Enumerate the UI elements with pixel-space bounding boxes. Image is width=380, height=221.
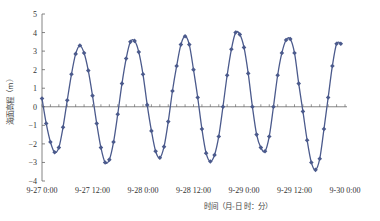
data-point-diamond (200, 127, 205, 132)
data-point-diamond (162, 144, 167, 149)
y-tick-label: 1 (33, 84, 37, 93)
data-point-diamond (141, 72, 146, 77)
x-axis-title: 时间（月-日 时：分） (204, 201, 272, 211)
data-point-diamond (301, 109, 306, 114)
data-point-diamond (94, 121, 99, 126)
x-tick-label: 9-27 12:00 (75, 186, 110, 195)
sea-level-chart: 543210−1−2−3−4 9-27 0:009-27 12:009-28 0… (0, 0, 380, 221)
data-point-diamond (216, 134, 221, 139)
data-point-diamond (115, 112, 120, 117)
x-tick-label: 9-27 0:00 (27, 186, 58, 195)
x-axis: 9-27 0:009-27 12:009-28 0:009-28 12:009-… (27, 104, 361, 195)
y-tick-label: −2 (28, 140, 37, 149)
data-point-diamond (267, 134, 272, 139)
y-tick-label: 2 (33, 66, 37, 75)
y-tick-label: 0 (33, 103, 37, 112)
y-tick-label: 5 (33, 10, 37, 19)
x-tick-label: 9-28 12:00 (176, 186, 211, 195)
y-tick-label: −4 (28, 177, 37, 186)
data-point-diamond (65, 98, 70, 103)
data-point-diamond (107, 157, 112, 162)
data-point-diamond (309, 160, 314, 165)
data-point-diamond (136, 50, 141, 55)
data-point-diamond (254, 132, 259, 137)
data-point-diamond (275, 73, 280, 78)
data-point-diamond (174, 64, 179, 69)
data-point-diamond (326, 95, 331, 100)
data-point-diamond (111, 140, 116, 145)
data-point-diamond (86, 68, 91, 73)
data-point-diamond (166, 119, 171, 124)
data-point-diamond (170, 89, 175, 94)
data-point-diamond (246, 71, 251, 76)
y-axis-title: 海面高程（m） (5, 75, 15, 124)
data-point-diamond (187, 42, 192, 47)
data-point-diamond (82, 51, 87, 56)
data-point-diamond (69, 72, 74, 77)
data-point-diamond (179, 42, 184, 47)
y-tick-label: 3 (33, 47, 37, 56)
y-tick-label: −3 (28, 158, 37, 167)
plot-area (40, 30, 343, 172)
data-point-diamond (221, 104, 226, 109)
data-point-diamond (120, 81, 125, 86)
data-point-diamond (330, 64, 335, 69)
data-point-diamond (250, 104, 255, 109)
data-point-diamond (149, 129, 154, 134)
data-point-diamond (317, 156, 322, 161)
data-point-diamond (292, 51, 297, 56)
data-point-diamond (191, 67, 196, 72)
data-point-diamond (61, 125, 66, 130)
y-tick-label: −1 (28, 121, 37, 130)
data-point-diamond (73, 52, 78, 57)
data-point-diamond (212, 153, 217, 158)
data-point-diamond (242, 45, 247, 50)
data-point-diamond (296, 81, 301, 86)
data-point-diamond (90, 93, 95, 98)
data-point-diamond (99, 145, 104, 150)
x-tick-label: 9-30 0:00 (330, 186, 361, 195)
data-point-diamond (124, 56, 129, 61)
data-point-diamond (225, 73, 230, 78)
data-point-diamond (259, 145, 264, 150)
data-point-diamond (195, 95, 200, 100)
data-point-diamond (48, 140, 53, 145)
data-point-diamond (305, 138, 310, 143)
data-point-diamond (322, 127, 327, 132)
x-tick-label: 9-28 0:00 (128, 186, 159, 195)
x-tick-label: 9-29 12:00 (277, 186, 312, 195)
data-point-diamond (204, 151, 209, 156)
data-point-diamond (40, 96, 45, 101)
data-point-diamond (271, 104, 276, 109)
data-point-diamond (263, 149, 268, 154)
data-point-diamond (153, 149, 158, 154)
data-point-diamond (280, 51, 285, 56)
data-point-diamond (229, 47, 234, 52)
data-point-diamond (57, 145, 62, 150)
data-point-diamond (103, 160, 108, 165)
x-tick-label: 9-29 0:00 (229, 186, 260, 195)
y-tick-label: 4 (33, 29, 37, 38)
